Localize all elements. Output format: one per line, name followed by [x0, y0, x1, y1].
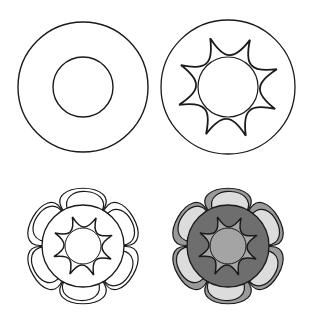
inner-circle — [198, 57, 258, 117]
flower-drawing-tutorial — [0, 0, 313, 333]
center-circle — [210, 228, 246, 264]
outer-circle — [18, 22, 148, 152]
step-4-flower-shaded — [173, 188, 283, 304]
step-2-sun-star — [161, 20, 295, 154]
step-1-concentric-circles — [18, 22, 148, 152]
diagram-canvas — [0, 0, 313, 333]
outer-circle — [161, 20, 295, 154]
center-ring — [42, 205, 124, 287]
inner-circle — [53, 57, 113, 117]
sun-star-outline — [179, 38, 277, 136]
step-3-flower-outline — [28, 188, 138, 304]
